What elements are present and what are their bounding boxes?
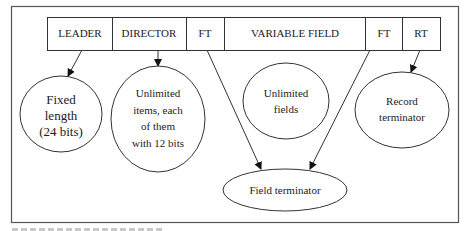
- node-text: with 12 bits: [132, 137, 184, 149]
- segment-rt: RT: [414, 27, 428, 39]
- segment-director: DIRECTOR: [122, 27, 177, 39]
- arrow-ft2-to-field-terminator: [310, 50, 370, 169]
- arrow-rt-to-record-terminator: [411, 50, 420, 72]
- arrow-ft1-to-field-terminator: [207, 50, 261, 169]
- node-text: Field terminator: [249, 184, 321, 196]
- node-text: Unlimited: [264, 87, 309, 99]
- segment-ft-2: FT: [378, 27, 391, 39]
- node-text: Unlimited: [136, 87, 181, 99]
- node-text: Fixed: [46, 92, 76, 107]
- node-field-terminator: Field terminator: [223, 169, 347, 211]
- segment-variable-field: VARIABLE FIELD: [251, 27, 339, 39]
- segment-ft-1: FT: [199, 27, 212, 39]
- node-text: Record: [386, 95, 418, 107]
- node-text: items, each: [133, 104, 183, 116]
- node-director-items: Unlimited items, each of them with 12 bi…: [111, 66, 205, 172]
- record-bar: LEADER DIRECTOR FT VARIABLE FIELD FT RT: [48, 18, 441, 51]
- node-fixed-length: Fixed length (24 bits): [20, 76, 102, 152]
- marc-record-diagram: LEADER DIRECTOR FT VARIABLE FIELD FT RT …: [0, 0, 464, 231]
- arrow-leader-to-fixed-length: [68, 50, 82, 76]
- clipped-caption: [12, 226, 162, 231]
- node-text: of them: [141, 120, 175, 132]
- node-record-terminator: Record terminator: [355, 72, 449, 148]
- node-text: fields: [274, 103, 298, 115]
- node-text: length: [45, 108, 78, 123]
- node-unlimited-fields: Unlimited fields: [243, 63, 329, 139]
- node-text: terminator: [379, 111, 425, 123]
- node-text: (24 bits): [39, 124, 83, 139]
- segment-leader: LEADER: [58, 27, 102, 39]
